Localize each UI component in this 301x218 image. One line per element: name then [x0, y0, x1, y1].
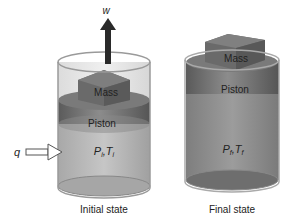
initial-caption: Initial state [80, 204, 128, 215]
heat-label: q [14, 146, 21, 158]
initial-mass-label: Mass [94, 87, 118, 98]
initial-state-vars: Pi,Ti [94, 145, 115, 158]
work-arrow [100, 18, 116, 64]
final-caption: Final state [209, 204, 256, 215]
final-state-vars: Pf,Tf [222, 143, 244, 156]
initial-piston-label: Piston [88, 118, 116, 129]
work-label: w [102, 5, 110, 16]
final-mass-label: Mass [224, 53, 248, 64]
final-piston-label: Piston [221, 84, 249, 95]
heat-arrow [26, 144, 62, 160]
diagram: w Mass Piston q Pi,Ti Initial state Mass… [0, 0, 301, 218]
